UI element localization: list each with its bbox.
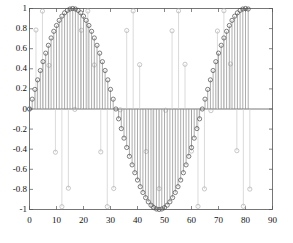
x-tick-label: 50: [152, 216, 178, 225]
x-axis-tick-labels: 0102030405060708090: [0, 0, 293, 243]
x-tick-label: 70: [206, 216, 232, 225]
x-tick-label: 40: [125, 216, 151, 225]
x-tick-label: 20: [71, 216, 97, 225]
x-tick-label: 80: [233, 216, 259, 225]
x-tick-label: 60: [179, 216, 205, 225]
figure: -1-0.8-0.6-0.4-0.200.20.40.60.81 0102030…: [0, 0, 293, 243]
x-tick-label: 30: [98, 216, 124, 225]
x-tick-label: 0: [17, 216, 43, 225]
x-tick-label: 90: [260, 216, 286, 225]
x-tick-label: 10: [44, 216, 70, 225]
